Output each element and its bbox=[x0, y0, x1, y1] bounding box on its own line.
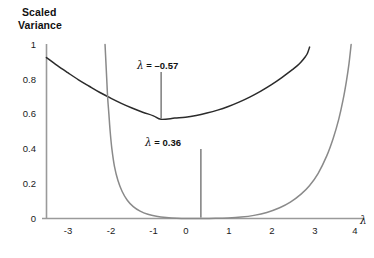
wide-variance-curve bbox=[46, 47, 309, 119]
lambda-symbol-neg: λ bbox=[137, 59, 144, 71]
annotation-lambda-positive-value: = 0.36 bbox=[152, 137, 181, 148]
y-tick-label-0-8: 0.8 bbox=[12, 74, 36, 85]
plot-area bbox=[0, 0, 374, 258]
x-tick-label-4: 4 bbox=[345, 225, 365, 236]
x-tick-label-2: 2 bbox=[262, 225, 282, 236]
scaled-variance-chart: Scaled Variance 1 0.8 0.6 0.4 0.2 0 -3 -… bbox=[0, 0, 374, 258]
y-tick-label-1: 1 bbox=[12, 39, 36, 50]
lambda-symbol-pos: λ bbox=[145, 136, 152, 148]
y-tick-label-0-2: 0.2 bbox=[12, 178, 36, 189]
x-tick-label-1: 1 bbox=[219, 225, 239, 236]
x-tick-label-minus-1: -1 bbox=[144, 225, 164, 236]
x-tick-label-minus-2: -2 bbox=[101, 225, 121, 236]
y-tick-label-0: 0 bbox=[12, 213, 36, 224]
x-tick-label-0: 0 bbox=[176, 225, 196, 236]
annotation-lambda-negative: λ = –0.57 bbox=[137, 59, 178, 71]
y-tick-label-0-4: 0.4 bbox=[12, 143, 36, 154]
x-tick-label-3: 3 bbox=[305, 225, 325, 236]
annotation-lambda-negative-value: = –0.57 bbox=[144, 60, 179, 71]
x-axis-variable-label: λ bbox=[360, 214, 367, 226]
y-tick-label-0-6: 0.6 bbox=[12, 108, 36, 119]
annotation-lambda-positive: λ = 0.36 bbox=[145, 136, 181, 148]
x-tick-label-minus-3: -3 bbox=[58, 225, 78, 236]
